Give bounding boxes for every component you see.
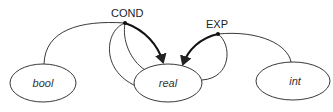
node-real-label: real: [159, 77, 178, 89]
edge-cond-real-outer: [109, 23, 136, 86]
edge-cond-real-inner: [124, 23, 145, 70]
diagram-canvas: COND EXP bool real int: [0, 0, 333, 112]
cond-junction-dot: [123, 21, 127, 25]
edge-cond-real-bold: [125, 23, 163, 62]
node-bool-label: bool: [33, 77, 54, 89]
exp-junction-dot: [216, 32, 220, 36]
exp-label: EXP: [206, 18, 228, 30]
coercion-graph: COND EXP bool real int: [0, 0, 333, 112]
edge-exp-int: [218, 33, 291, 62]
edge-exp-real-loop: [202, 34, 227, 80]
cond-label: COND: [111, 7, 143, 19]
node-int-label: int: [289, 75, 302, 87]
edge-exp-real-bold: [183, 34, 218, 64]
edge-cond-bool: [44, 22, 125, 64]
